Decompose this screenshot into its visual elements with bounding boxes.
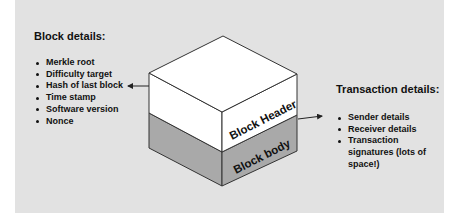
body-to-transaction-details-arrow [298,116,322,119]
transaction-details-list: Sender details Receiver details Transact… [336,112,446,171]
list-item: Receiver details [336,124,446,136]
block-details-heading: Block details: [34,30,106,42]
list-item: Software version [34,104,123,116]
list-item: Transaction signatures (lots of space!) [336,135,446,170]
list-item: Time stamp [34,92,123,104]
transaction-details-heading: Transaction details: [336,83,439,95]
list-item: Merkle root [34,57,123,69]
list-item: Nonce [34,116,123,128]
list-item: Difficulty target [34,69,123,81]
list-item: Sender details [336,112,446,124]
list-item: Hash of last block [34,80,123,92]
block-details-list: Merkle root Difficulty target Hash of la… [34,57,123,127]
